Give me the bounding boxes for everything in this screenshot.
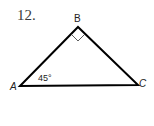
vertex-label-a: A (10, 81, 17, 92)
vertex-label-c: C (139, 78, 146, 89)
right-angle-marker (71, 34, 85, 41)
vertex-label-b: B (74, 13, 81, 24)
diagram: 12. B A C 45° (0, 0, 154, 126)
angle-label-a: 45° (38, 73, 52, 83)
